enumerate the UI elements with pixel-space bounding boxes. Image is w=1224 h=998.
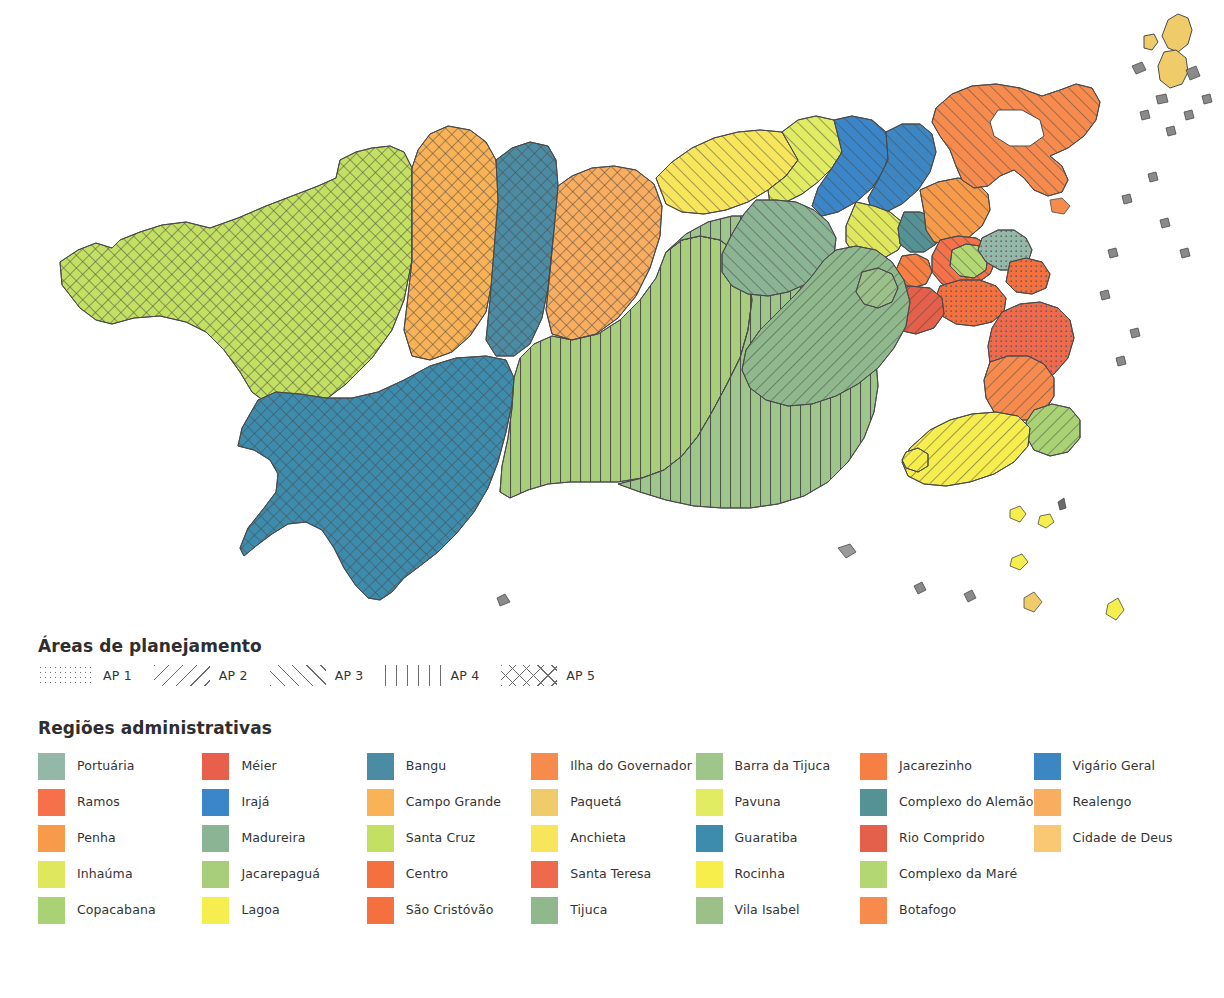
ap-legend-item-5[interactable]: AP 5 [501,665,595,686]
color-swatch [38,825,65,852]
region-label: Copacabana [77,904,156,917]
region-label: Tijuca [570,904,607,917]
region-label: Vila Isabel [735,904,800,917]
color-swatch [860,753,887,780]
region-sao-cristovao[interactable] [1006,258,1050,294]
ap-legend-item-3[interactable]: AP 3 [270,665,364,686]
region-santa-cruz[interactable] [60,146,412,412]
region-paqueta[interactable] [1144,14,1192,88]
region-label: Rio Comprido [899,832,985,845]
region-label: Penha [77,832,116,845]
legend-item-empty [1034,856,1198,892]
legend-item-rocinha[interactable]: Rocinha [696,856,860,892]
region-bangu[interactable] [486,142,558,356]
legend-item-santa-teresa[interactable]: Santa Teresa [531,856,695,892]
administrative-regions-grid: PortuáriaRamosPenhaInhaúmaCopacabanaMéie… [38,748,1198,928]
color-swatch [1034,897,1061,924]
region-campo-grande[interactable] [404,126,500,360]
region-label: Méier [241,760,276,773]
region-label: Barra da Tijuca [735,760,831,773]
ap-legend-item-1[interactable]: AP 1 [38,665,132,686]
color-swatch [531,789,558,816]
color-swatch [202,825,229,852]
legend-item-vigario-geral[interactable]: Vigário Geral [1034,748,1198,784]
legend-item-madureira[interactable]: Madureira [202,820,366,856]
legend-item-santa-cruz[interactable]: Santa Cruz [367,820,531,856]
legend-item-complexo-do-alemao[interactable]: Complexo do Alemão [860,784,1034,820]
color-swatch [860,897,887,924]
region-label: Rocinha [735,868,785,881]
region-label: Botafogo [899,904,956,917]
legend-item-vila-isabel[interactable]: Vila Isabel [696,892,860,928]
legend-item-iraja[interactable]: Irajá [202,784,366,820]
legend-item-tijuca[interactable]: Tijuca [531,892,695,928]
color-swatch [202,753,229,780]
region-centro[interactable] [934,280,1006,326]
region-label: Vigário Geral [1073,760,1156,773]
region-lagoa[interactable] [902,412,1030,486]
color-swatch [531,897,558,924]
region-vila-isabel[interactable] [856,268,898,308]
legend-item-pavuna[interactable]: Pavuna [696,784,860,820]
legend-item-ilha-do-governador[interactable]: Ilha do Governador [531,748,695,784]
color-swatch [367,789,394,816]
region-label: Irajá [241,796,269,809]
legend-item-copacabana[interactable]: Copacabana [38,892,202,928]
legend-item-anchieta[interactable]: Anchieta [531,820,695,856]
legend-item-botafogo[interactable]: Botafogo [860,892,1034,928]
legend-item-campo-grande[interactable]: Campo Grande [367,784,531,820]
legend-item-ramos[interactable]: Ramos [38,784,202,820]
region-rocinha[interactable] [902,448,928,472]
color-swatch [696,861,723,888]
map-page: Áreas de planejamento AP 1 AP 2 AP 3 AP … [0,0,1224,998]
color-swatch [367,753,394,780]
region-label: Campo Grande [406,796,501,809]
region-label: Cidade de Deus [1073,832,1173,845]
region-penha[interactable] [920,178,990,244]
legend-item-lagoa[interactable]: Lagoa [202,892,366,928]
map-canvas[interactable] [0,0,1224,630]
ap-legend-item-2[interactable]: AP 2 [154,665,248,686]
legend-item-guaratiba[interactable]: Guaratiba [696,820,860,856]
legend-item-penha[interactable]: Penha [38,820,202,856]
region-label: Paquetá [570,796,621,809]
planning-areas-row: AP 1 AP 2 AP 3 AP 4 AP 5 [38,665,1188,686]
ap2-pattern-swatch [154,665,210,686]
region-label: Madureira [241,832,305,845]
legend-item-jacarepagua[interactable]: Jacarepaguá [202,856,366,892]
ap1-pattern-swatch [38,665,94,686]
legend-item-barra-da-tijuca[interactable]: Barra da Tijuca [696,748,860,784]
legend-item-paqueta[interactable]: Paquetá [531,784,695,820]
legend-item-bangu[interactable]: Bangu [367,748,531,784]
color-swatch [696,753,723,780]
planning-areas-legend: Áreas de planejamento AP 1 AP 2 AP 3 AP … [38,636,1188,686]
offshore-islets [497,498,1124,620]
rio-de-janeiro-map[interactable] [0,0,1224,630]
legend-item-portuaria[interactable]: Portuária [38,748,202,784]
ap5-label: AP 5 [566,668,595,683]
legend-item-meier[interactable]: Méier [202,748,366,784]
legend-item-cidade-de-deus[interactable]: Cidade de Deus [1034,820,1198,856]
planning-areas-title: Áreas de planejamento [38,636,1188,656]
region-label: Centro [406,868,448,881]
legend-item-rio-comprido[interactable]: Rio Comprido [860,820,1034,856]
region-label: Ramos [77,796,120,809]
color-swatch [696,825,723,852]
region-label: Bangu [406,760,447,773]
color-swatch [202,789,229,816]
legend-item-inhauma[interactable]: Inhaúma [38,856,202,892]
legend-item-complexo-da-mare[interactable]: Complexo da Maré [860,856,1034,892]
color-swatch [860,861,887,888]
ap-legend-item-4[interactable]: AP 4 [385,665,479,686]
legend-item-sao-cristovao[interactable]: São Cristóvão [367,892,531,928]
region-copacabana[interactable] [1026,404,1080,456]
legend-item-realengo[interactable]: Realengo [1034,784,1198,820]
region-guaratiba[interactable] [238,356,514,600]
legend-item-centro[interactable]: Centro [367,856,531,892]
legend-item-jacarezinho[interactable]: Jacarezinho [860,748,1034,784]
color-swatch [696,789,723,816]
color-swatch [367,897,394,924]
color-swatch [531,861,558,888]
administrative-regions-title: Regiões administrativas [38,718,1198,738]
color-swatch [531,825,558,852]
